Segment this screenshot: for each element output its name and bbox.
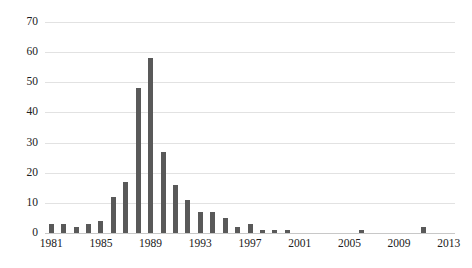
- bar: [359, 230, 364, 233]
- x-tick-label: 2009: [388, 238, 411, 250]
- bar: [260, 230, 265, 233]
- y-tick-label: 50: [27, 77, 39, 89]
- bar: [123, 182, 128, 233]
- x-tick-label: 1989: [139, 238, 162, 250]
- y-tick-label: 60: [27, 46, 39, 58]
- x-tick-label: 2013: [437, 238, 460, 250]
- x-axis: 198119851989199319972001200520092013: [45, 238, 455, 258]
- bar: [185, 200, 190, 233]
- bar: [421, 227, 426, 233]
- x-tick-label: 1997: [239, 238, 262, 250]
- x-tick-label: 1981: [40, 238, 63, 250]
- x-tick-label: 1985: [89, 238, 112, 250]
- gridline: [45, 233, 455, 234]
- x-tick-label: 1993: [189, 238, 212, 250]
- bars-series: [45, 22, 455, 233]
- y-tick-label: 30: [27, 137, 39, 149]
- bar: [248, 224, 253, 233]
- y-tick-label: 70: [27, 16, 39, 28]
- y-tick-label: 40: [27, 107, 39, 119]
- bar: [210, 212, 215, 233]
- bar: [285, 230, 290, 233]
- bar: [136, 88, 141, 233]
- y-tick-label: 20: [27, 167, 39, 179]
- bar: [74, 227, 79, 233]
- bar: [235, 227, 240, 233]
- y-axis: 010203040506070: [0, 0, 45, 268]
- plot-area: [45, 22, 455, 233]
- bar: [148, 58, 153, 233]
- x-tick-label: 2005: [338, 238, 361, 250]
- bar: [173, 185, 178, 233]
- y-tick-label: 10: [27, 197, 39, 209]
- bar: [161, 152, 166, 233]
- bar: [61, 224, 66, 233]
- y-tick-label: 0: [32, 227, 38, 239]
- bar: [49, 224, 54, 233]
- bar-chart: 010203040506070 198119851989199319972001…: [0, 0, 472, 268]
- bar: [198, 212, 203, 233]
- bar: [86, 224, 91, 233]
- bar: [272, 230, 277, 233]
- x-tick-label: 2001: [288, 238, 311, 250]
- bar: [98, 221, 103, 233]
- bar: [111, 197, 116, 233]
- bar: [223, 218, 228, 233]
